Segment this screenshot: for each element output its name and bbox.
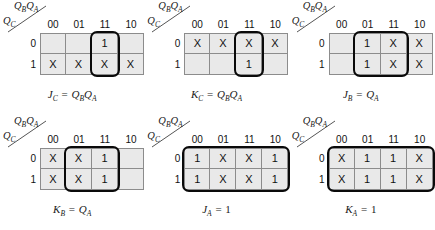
kmap-cell: X — [40, 169, 66, 190]
kmap-cell: X — [184, 33, 210, 54]
kmap-cell: X — [329, 148, 355, 169]
kmap-cell — [184, 54, 210, 75]
column-header: 10 — [407, 134, 433, 145]
row-header: 0 — [166, 33, 180, 54]
row-headers: 01 — [166, 33, 180, 75]
column-header: 00 — [184, 134, 210, 145]
column-header: 01 — [66, 134, 92, 145]
kmap-cell: 1 — [262, 169, 288, 190]
kmap-cell: X — [262, 33, 288, 54]
row-headers: 01 — [22, 33, 36, 75]
row-header: 1 — [22, 54, 36, 75]
kmap-cell: 1 — [92, 148, 118, 169]
row-headers: 01 — [311, 33, 325, 75]
kmap-cell: X — [210, 33, 236, 54]
axis-label-qc: QC — [147, 15, 160, 29]
kmap-cell — [329, 33, 355, 54]
kmap-ka: QBQAQC0001111001X11XX11XKA = 1 — [289, 115, 433, 230]
row-headers: 01 — [166, 148, 180, 190]
kmap-cell: X — [66, 169, 92, 190]
kmap-cell — [118, 169, 144, 190]
kmap-cell: X — [407, 54, 433, 75]
kmap-cell: X — [92, 54, 118, 75]
row-header: 0 — [22, 33, 36, 54]
kmap-jb: QBQAQC00011110011XX1XXJB = QA — [289, 0, 433, 115]
column-headers: 00011110 — [40, 19, 144, 30]
kmap-cell-grid: X11XX11X — [329, 148, 433, 190]
kmap-jc: QBQAQC00011110011XXXXJC = QBQA — [0, 0, 144, 115]
kmap-cell — [66, 33, 92, 54]
kmap-cell: X — [236, 148, 262, 169]
column-header: 00 — [329, 19, 355, 30]
axis-label-qc: QC — [3, 130, 16, 144]
kmap-cell: X — [236, 33, 262, 54]
kmap-cell — [118, 33, 144, 54]
kmap-cell — [118, 148, 144, 169]
axis-label-qc: QC — [292, 15, 305, 29]
kmap-cell: X — [381, 54, 407, 75]
column-header: 01 — [210, 134, 236, 145]
column-headers: 00011110 — [329, 19, 433, 30]
kmap-cell: 1 — [184, 148, 210, 169]
row-headers: 01 — [22, 148, 36, 190]
kmap-cell-grid: 1XX1XX — [329, 33, 433, 75]
kmap-cell-grid: 1XX11XX1 — [184, 148, 288, 190]
kmap-caption: JC = QBQA — [0, 88, 144, 103]
kmap-cell: 1 — [262, 148, 288, 169]
kmap-cell: 1 — [381, 169, 407, 190]
kmap-cell — [210, 54, 236, 75]
kmap-cell: X — [381, 33, 407, 54]
kmap-caption: KB = QA — [0, 203, 144, 218]
kmap-cell: X — [66, 148, 92, 169]
kmap-cell: X — [40, 148, 66, 169]
kmap-cell: 1 — [92, 169, 118, 190]
column-header: 01 — [210, 19, 236, 30]
kmap-caption: KA = 1 — [289, 203, 433, 218]
column-header: 10 — [118, 19, 144, 30]
row-header: 1 — [311, 169, 325, 190]
column-header: 11 — [236, 19, 262, 30]
kmap-cell: X — [407, 33, 433, 54]
column-headers: 00011110 — [40, 134, 144, 145]
kmap-cell: 1 — [184, 169, 210, 190]
column-header: 01 — [355, 19, 381, 30]
kmap-caption: JB = QA — [289, 88, 433, 103]
kmap-cell: X — [407, 169, 433, 190]
axis-label-qc: QC — [147, 130, 160, 144]
column-headers: 00011110 — [184, 134, 288, 145]
kmap-cell: 1 — [355, 169, 381, 190]
axis-label-qc: QC — [292, 130, 305, 144]
kmap-cell-grid: 1XXXX — [40, 33, 144, 75]
kmap-cell: X — [40, 54, 66, 75]
row-header: 1 — [311, 54, 325, 75]
axis-label-qc: QC — [3, 15, 16, 29]
kmap-cell: X — [329, 169, 355, 190]
axis-label-qbqa: QBQA — [158, 0, 182, 14]
column-header: 11 — [381, 19, 407, 30]
column-header: 01 — [66, 19, 92, 30]
column-header: 10 — [407, 19, 433, 30]
kmap-cell-grid: XX1XX1 — [40, 148, 144, 190]
row-header: 1 — [166, 54, 180, 75]
axis-label-qbqa: QBQA — [158, 115, 182, 129]
axis-label-qbqa: QBQA — [303, 0, 327, 14]
kmap-cell: X — [66, 54, 92, 75]
column-header: 10 — [262, 19, 288, 30]
row-header: 1 — [22, 169, 36, 190]
kmap-kc: QBQAQC0001111001XXXX1KC = QBQA — [144, 0, 288, 115]
row-header: 0 — [311, 33, 325, 54]
column-headers: 00011110 — [329, 134, 433, 145]
kmap-cell: X — [407, 148, 433, 169]
column-header: 00 — [40, 19, 66, 30]
column-header: 11 — [236, 134, 262, 145]
row-header: 0 — [311, 148, 325, 169]
kmap-ja: QBQAQC00011110011XX11XX1JA = 1 — [144, 115, 288, 230]
kmap-cell: 1 — [236, 54, 262, 75]
row-header: 0 — [166, 148, 180, 169]
column-headers: 00011110 — [184, 19, 288, 30]
column-header: 11 — [92, 134, 118, 145]
column-header: 11 — [92, 19, 118, 30]
kmap-cell — [262, 54, 288, 75]
column-header: 10 — [118, 134, 144, 145]
